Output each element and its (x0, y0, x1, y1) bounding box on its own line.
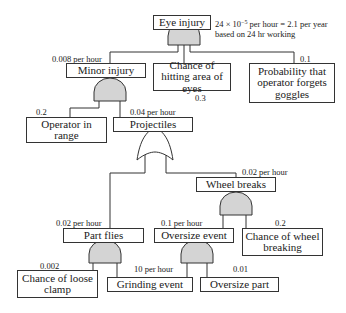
oversize-part-value: 0.01 (233, 265, 248, 274)
and-gate-icon (181, 240, 213, 263)
event-chance-loose-clamp: Chance of loose clamp (17, 270, 98, 298)
part-flies-value: 0.02 per hour (56, 219, 102, 228)
and-gate-icon (220, 192, 252, 215)
event-label: Operator in range (29, 119, 104, 142)
event-operator-in-range: Operator in range (26, 117, 107, 143)
and-gate-icon (89, 240, 121, 263)
grinding-event-value: 10 per hour (134, 265, 173, 274)
and-gate-icon (94, 78, 126, 101)
oversize-event-value: 0.1 per hour (161, 219, 202, 228)
event-label: Chance of loose clamp (20, 273, 95, 296)
event-label: Minor injury (78, 65, 135, 77)
event-projectiles: Projectiles (113, 117, 193, 132)
event-label: Oversize event (161, 230, 227, 242)
top-event-eye-injury: Eye injury (153, 15, 211, 30)
event-label: Chance of wheel breaking (245, 231, 320, 254)
event-minor-injury: Minor injury (66, 63, 146, 78)
event-label: Part flies (84, 230, 123, 242)
event-label: Oversize part (210, 279, 269, 291)
projectiles-value: 0.04 per hour (130, 108, 176, 117)
event-label: Wheel breaks (206, 179, 266, 191)
event-label: Grinding event (117, 279, 183, 291)
wheel-breaks-value: 0.02 per hour (242, 168, 288, 177)
event-wheel-breaks: Wheel breaks (196, 177, 276, 192)
event-grinding-event: Grinding event (107, 277, 193, 292)
event-chance-wheel-breaking: Chance of wheel breaking (242, 228, 323, 256)
event-label: Probability that operator forgets goggle… (252, 66, 332, 101)
chance-hitting-eyes-value: 0.3 (195, 94, 206, 103)
chance-wheel-breaking-value: 0.2 (275, 219, 286, 228)
top-event-rate-note: 24 × 10−5 per hour = 2.1 per year based … (215, 17, 328, 39)
event-part-flies: Part flies (63, 228, 144, 243)
operator-in-range-value: 0.2 (36, 108, 47, 117)
event-oversize-event: Oversize event (154, 228, 234, 243)
event-label: Chance of hitting area of eyes (156, 60, 228, 95)
event-label: Projectiles (130, 119, 176, 131)
event-oversize-part: Oversize part (200, 277, 279, 292)
event-chance-hitting-eyes: Chance of hitting area of eyes (153, 63, 231, 91)
event-label: Eye injury (159, 17, 205, 29)
fault-tree-diagram: Eye injury 24 × 10−5 per hour = 2.1 per … (0, 0, 346, 313)
event-forgets-goggles: Probability that operator forgets goggle… (249, 63, 335, 103)
